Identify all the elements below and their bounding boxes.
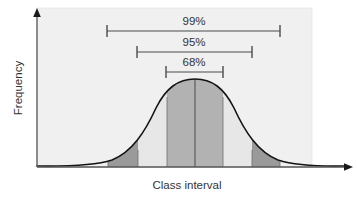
figure-container: 99% 95% 68% Frequency Class interval (0, 0, 357, 200)
y-axis-label: Frequency (12, 61, 24, 116)
bracket-68-label: 68% (182, 56, 205, 68)
arrow-right-icon (344, 163, 353, 171)
normal-distribution-chart: 99% 95% 68% Frequency Class interval (0, 0, 357, 200)
x-axis-label: Class interval (152, 179, 221, 191)
bracket-99-label: 99% (182, 15, 205, 27)
bracket-95-label: 95% (182, 36, 205, 48)
